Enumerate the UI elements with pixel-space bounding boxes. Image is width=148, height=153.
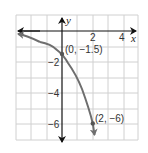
tick-x-4: 4 [119,32,125,43]
graph: y x 2 4 −2 −4 −6 (0, −1.5) (2, −6) [0,0,148,153]
point-label-1: (0, −1.5) [65,44,103,55]
point-label-2: (2, −6) [95,113,124,124]
tick-y-minus-6: −6 [48,119,60,130]
curve-left-tail [18,34,40,42]
y-axis-label: y [65,14,71,26]
point-0-neg1p5 [60,52,64,56]
x-axis-label: x [130,32,136,44]
tick-y-minus-2: −2 [48,57,60,68]
tick-x-2: 2 [90,32,96,43]
tick-y-minus-4: −4 [48,88,60,99]
